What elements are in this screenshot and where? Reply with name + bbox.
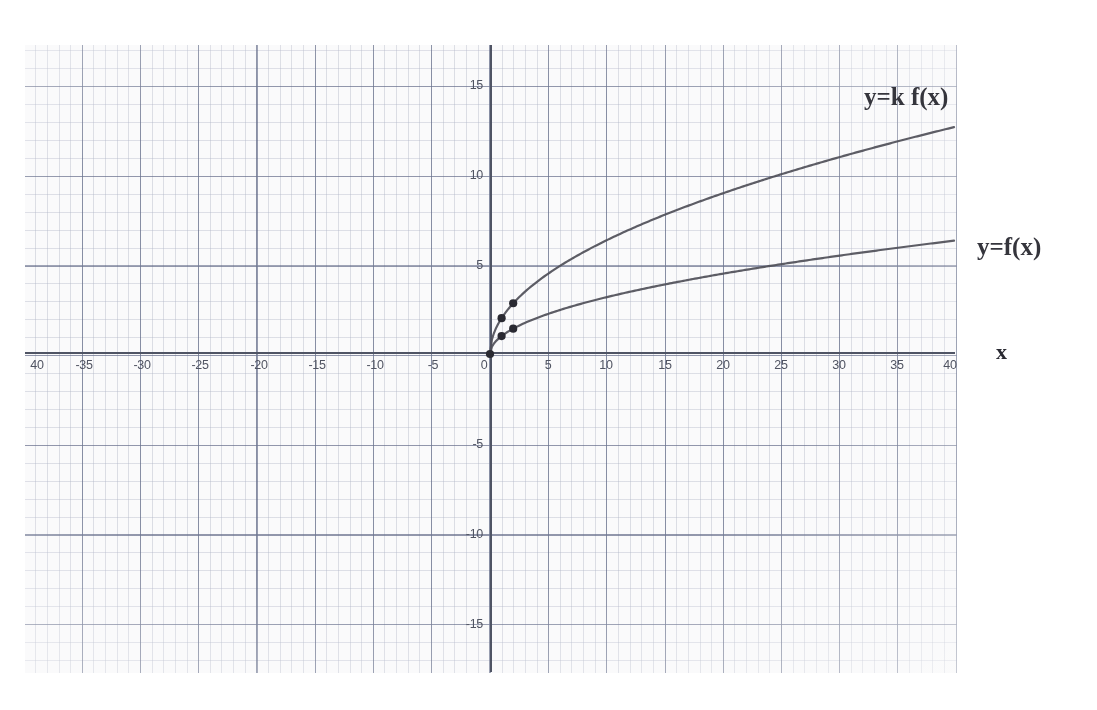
x-axis-label: x	[996, 339, 1007, 365]
y-tick-label: -10	[459, 527, 483, 541]
y-tick-label: 5	[459, 258, 483, 272]
x-tick-label: -15	[308, 358, 325, 372]
x-tick-label: -10	[366, 358, 383, 372]
x-tick-label: 40	[943, 358, 956, 372]
x-tick-label: 10	[599, 358, 612, 372]
marker-upper-x1	[498, 314, 506, 322]
y-tick-label: -5	[459, 437, 483, 451]
x-tick-label: 30	[832, 358, 845, 372]
y-tick-label: 15	[459, 78, 483, 92]
marker-lower-x1	[498, 332, 506, 340]
curve-label-lower: y=f(x)	[977, 233, 1041, 261]
x-tick-label: -20	[250, 358, 267, 372]
y-tick-label: -15	[459, 617, 483, 631]
x-tick-label: 25	[774, 358, 787, 372]
x-tick-label: 0	[481, 358, 488, 372]
marker-upper-x2	[509, 299, 517, 307]
marker-lower-x2	[509, 325, 517, 333]
x-tick-label: -25	[191, 358, 208, 372]
y-tick-label: 10	[459, 168, 483, 182]
x-tick-label: 5	[545, 358, 552, 372]
x-tick-label: 15	[658, 358, 671, 372]
x-tick-label: 40	[30, 358, 43, 372]
curve-lower-y-equals-f-x	[490, 241, 954, 354]
x-tick-label: -30	[133, 358, 150, 372]
marker-origin	[486, 350, 494, 358]
x-tick-label: -5	[428, 358, 439, 372]
curve-label-upper: y=k f(x)	[864, 83, 948, 111]
x-tick-label: 20	[716, 358, 729, 372]
curve-upper-y-equals-k-f-x	[490, 127, 954, 354]
x-tick-label: 35	[890, 358, 903, 372]
graph-scan-image: 40 -35 -30 -25 -20 -15 -10 -5 0 5 10 15 …	[0, 0, 1097, 710]
x-tick-label: -35	[75, 358, 92, 372]
